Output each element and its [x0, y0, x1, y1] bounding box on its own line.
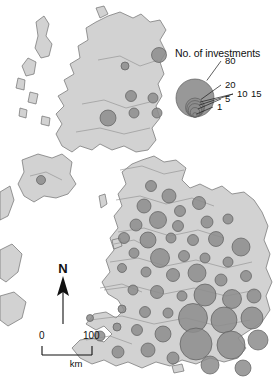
investment-bubble	[146, 181, 157, 192]
scale-bar-unit-label: km	[30, 358, 122, 369]
investment-bubble	[130, 219, 142, 231]
investment-bubble	[177, 291, 187, 301]
investment-bubble	[211, 307, 237, 333]
investment-bubble	[209, 232, 224, 247]
investment-bubble	[150, 212, 167, 229]
investment-bubble	[126, 91, 137, 102]
investment-bubble	[141, 267, 151, 277]
north-arrow-label: N	[44, 262, 82, 275]
investment-bubble	[223, 257, 233, 267]
north-arrow: N	[44, 262, 82, 324]
investment-bubble	[155, 326, 171, 342]
investment-bubble	[129, 108, 139, 118]
investment-bubble	[217, 331, 245, 359]
investment-bubble	[215, 274, 227, 286]
investment-bubble	[148, 93, 158, 103]
investment-bubble	[152, 48, 167, 63]
investment-bubble	[180, 328, 212, 360]
legend: No. of investments 8020151051	[175, 47, 274, 131]
investment-bubble	[129, 248, 139, 258]
investment-bubble	[132, 325, 143, 336]
investment-bubble	[141, 343, 155, 357]
scale-bar-glyph	[30, 344, 122, 358]
north-arrow-glyph	[44, 276, 82, 324]
investment-bubble	[193, 197, 206, 210]
legend-symbols: 8020151051	[175, 47, 274, 131]
legend-label: 1	[217, 101, 222, 112]
scale-bar-max-label: 100	[83, 330, 100, 341]
investment-bubble	[121, 62, 129, 70]
investment-bubble	[241, 271, 252, 282]
legend-leader-line	[207, 61, 221, 81]
legend-circle	[193, 113, 197, 117]
legend-label: 15	[251, 88, 262, 99]
legend-label: 20	[225, 79, 236, 90]
investment-bubble	[151, 249, 170, 268]
investment-bubble	[223, 290, 242, 309]
investment-bubble	[87, 315, 94, 322]
investment-bubble	[167, 269, 180, 282]
investment-bubble	[232, 238, 250, 256]
scale-bar-bracket	[42, 346, 92, 355]
investment-bubble	[140, 307, 151, 318]
legend-label: 80	[225, 55, 236, 66]
investment-bubble	[173, 221, 184, 232]
investment-bubble	[151, 286, 164, 299]
investment-bubble	[167, 352, 179, 364]
investment-bubble	[100, 110, 116, 126]
investment-bubble	[201, 356, 219, 374]
investment-bubble	[137, 199, 151, 213]
investment-bubble	[140, 232, 156, 248]
investment-bubble	[119, 233, 130, 244]
investment-bubble	[201, 216, 213, 228]
legend-label: 5	[225, 93, 230, 104]
investment-bubble	[163, 308, 173, 318]
investment-bubble	[188, 235, 199, 246]
investment-bubble	[37, 176, 46, 185]
investment-bubble	[200, 253, 210, 263]
investment-bubble	[241, 307, 263, 329]
investment-bubble	[152, 108, 162, 118]
investment-bubble	[128, 285, 138, 295]
investment-bubble	[166, 233, 176, 243]
investment-bubble	[188, 264, 206, 282]
investment-bubble	[162, 189, 176, 203]
scale-bar: 0 100 km	[30, 330, 122, 370]
investment-bubble	[223, 214, 233, 224]
scale-bar-min-label: 0	[39, 330, 45, 341]
investment-bubble	[247, 289, 261, 303]
investment-bubble	[235, 360, 251, 376]
investment-bubble	[118, 264, 127, 273]
investment-bubble	[175, 206, 186, 217]
investment-bubble	[194, 284, 216, 306]
investment-bubble	[118, 305, 126, 313]
investment-bubble	[248, 330, 268, 350]
legend-label: 10	[237, 88, 248, 99]
investment-bubble	[179, 251, 190, 262]
investment-bubble-map: No. of investments 8020151051 N 0 100 km	[0, 0, 274, 388]
